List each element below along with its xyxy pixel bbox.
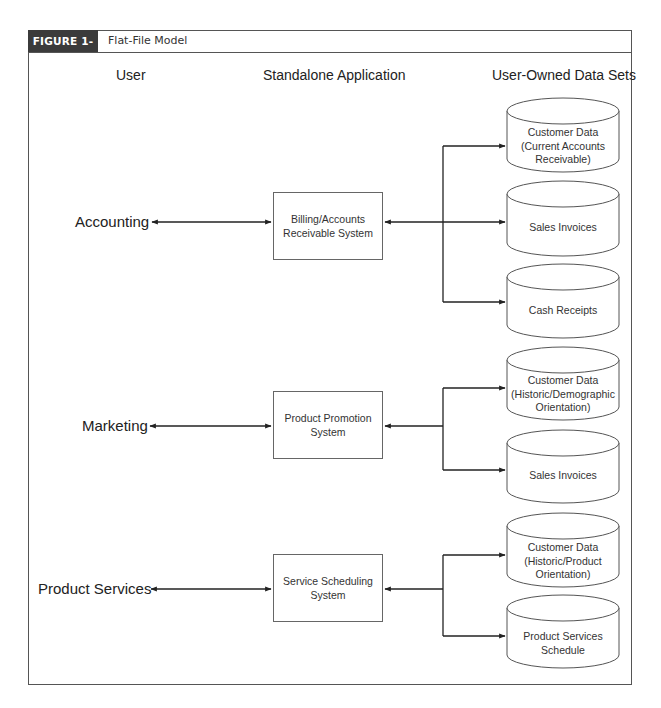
app-label-line2: Receivable System — [283, 226, 373, 240]
user-accounting: Accounting — [75, 213, 149, 230]
dataset-customer-data-current-ar: Customer Data (Current Accounts Receivab… — [507, 126, 619, 167]
dataset-line: Sales Invoices — [507, 469, 619, 483]
dataset-line: Orientation) — [507, 401, 619, 415]
dataset-sales-invoices-marketing: Sales Invoices — [507, 469, 619, 483]
dataset-line: (Historic/Product — [507, 555, 619, 569]
dataset-product-services-schedule: Product Services Schedule — [507, 630, 619, 657]
database-cylinder-icon — [507, 181, 619, 256]
app-label-line1: Billing/Accounts — [283, 212, 373, 226]
app-service-scheduling-system: Service SchedulingSystem — [273, 554, 383, 622]
user-product-services: Product Services — [38, 580, 151, 597]
user-marketing: Marketing — [82, 417, 148, 434]
dataset-cash-receipts: Cash Receipts — [507, 304, 619, 318]
dataset-line: Sales Invoices — [507, 221, 619, 235]
app-billing-ar-system: Billing/AccountsReceivable System — [273, 192, 383, 260]
dataset-line: (Historic/Demographic — [507, 388, 619, 402]
dataset-line: Product Services — [507, 630, 619, 644]
app-label-line2: System — [283, 588, 373, 602]
database-cylinder-icon — [507, 430, 619, 503]
dataset-line: (Current Accounts — [507, 140, 619, 154]
database-cylinder-icon — [507, 264, 619, 338]
dataset-line: Orientation) — [507, 568, 619, 582]
app-product-promotion-system: Product PromotionSystem — [273, 391, 383, 459]
dataset-customer-data-historic-product: Customer Data (Historic/Product Orientat… — [507, 541, 619, 582]
dataset-line: Schedule — [507, 644, 619, 658]
dataset-line: Cash Receipts — [507, 304, 619, 318]
dataset-line: Customer Data — [507, 126, 619, 140]
dataset-line: Customer Data — [507, 541, 619, 555]
dataset-line: Receivable) — [507, 153, 619, 167]
app-label-line1: Product Promotion — [285, 411, 372, 425]
app-label-line1: Service Scheduling — [283, 574, 373, 588]
dataset-sales-invoices: Sales Invoices — [507, 221, 619, 235]
dataset-customer-data-historic-demographic: Customer Data (Historic/Demographic Orie… — [507, 374, 619, 415]
app-label-line2: System — [285, 425, 372, 439]
dataset-line: Customer Data — [507, 374, 619, 388]
